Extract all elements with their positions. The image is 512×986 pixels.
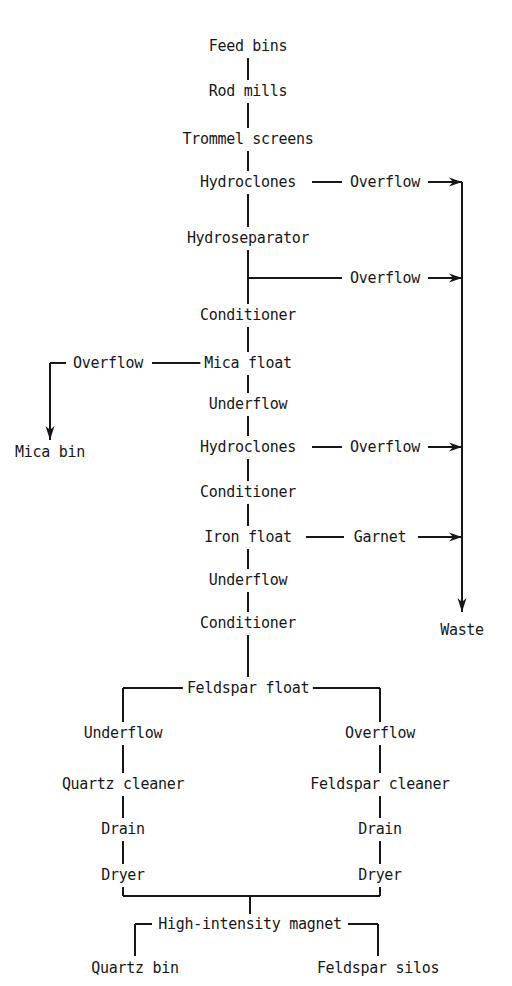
node-dryer-right: Dryer <box>354 868 406 883</box>
node-feed-bins: Feed bins <box>205 39 292 54</box>
node-rod-mills: Rod mills <box>205 84 292 99</box>
node-underflow-1: Underflow <box>205 397 292 412</box>
node-overflow-1: Overflow <box>346 175 424 190</box>
node-overflow-3: Overflow <box>69 356 147 371</box>
node-underflow-2: Underflow <box>205 573 292 588</box>
node-iron-float: Iron float <box>200 530 295 545</box>
node-quartz-bin: Quartz bin <box>87 961 182 976</box>
flowsheet-diagram: Feed binsRod millsTrommel screensHydrocl… <box>0 0 512 986</box>
node-hydroseparator: Hydroseparator <box>183 231 313 246</box>
node-feldspar-silos: Feldspar silos <box>313 961 443 976</box>
node-garnet: Garnet <box>350 530 410 545</box>
node-mica-bin: Mica bin <box>11 445 89 460</box>
node-feldspar-cleaner: Feldspar cleaner <box>306 777 454 792</box>
node-hydroclones-2: Hydroclones <box>196 440 300 455</box>
node-feldspar-float: Feldspar float <box>183 681 313 696</box>
node-conditioner-3: Conditioner <box>196 616 300 631</box>
node-overflow-4: Overflow <box>346 440 424 455</box>
node-overflow-2: Overflow <box>346 271 424 286</box>
node-quartz-cleaner: Quartz cleaner <box>58 777 188 792</box>
node-hydroclones-1: Hydroclones <box>196 175 300 190</box>
node-underflow-3: Underflow <box>80 726 167 741</box>
node-drain-right: Drain <box>354 822 406 837</box>
node-mica-float: Mica float <box>200 356 295 371</box>
node-waste: Waste <box>436 623 488 638</box>
node-overflow-5: Overflow <box>341 726 419 741</box>
node-trommel-screens: Trommel screens <box>179 132 318 147</box>
node-drain-left: Drain <box>97 822 149 837</box>
node-conditioner-1: Conditioner <box>196 308 300 323</box>
node-dryer-left: Dryer <box>97 868 149 883</box>
node-high-intensity-magnet: High-intensity magnet <box>154 917 345 932</box>
node-conditioner-2: Conditioner <box>196 485 300 500</box>
